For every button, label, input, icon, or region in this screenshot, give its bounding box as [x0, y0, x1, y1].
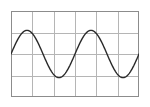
grid-lines — [11, 11, 139, 97]
plot-area — [11, 11, 139, 97]
sine-wave-chart — [0, 0, 150, 107]
grid-group — [11, 11, 139, 97]
